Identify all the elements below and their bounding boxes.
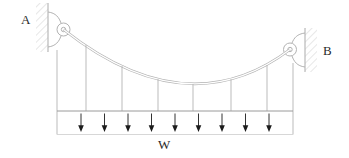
load-arrow <box>172 114 178 133</box>
wall-right <box>305 28 317 72</box>
pin-support-left <box>48 12 70 47</box>
cable <box>64 30 291 84</box>
support-label-b: B <box>323 44 332 57</box>
cable-diagram: A B W <box>0 0 349 158</box>
load-arrow <box>196 114 202 133</box>
pin-support-right <box>284 33 306 67</box>
cable-diagram-drawing <box>0 0 349 158</box>
load-arrow <box>219 114 225 133</box>
load-arrow <box>125 114 131 133</box>
load-arrow <box>149 114 155 133</box>
load-label-w: W <box>158 138 170 151</box>
load-arrow <box>102 114 108 133</box>
wall-right-hatch <box>305 28 317 72</box>
load-arrow <box>78 114 84 133</box>
load-arrow <box>243 114 249 133</box>
wall-left-hatch <box>36 3 48 52</box>
wall-left <box>36 3 48 52</box>
load-arrows <box>78 114 272 133</box>
support-label-a: A <box>21 13 30 26</box>
load-arrow <box>266 114 272 133</box>
